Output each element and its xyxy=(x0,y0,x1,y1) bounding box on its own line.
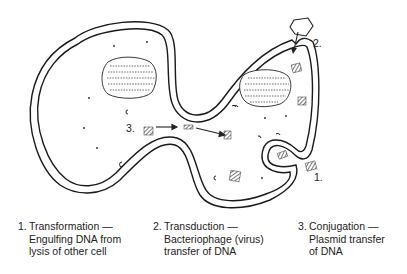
caption-line: Bacteriophage (virus) xyxy=(153,233,264,246)
caption-number: 1. xyxy=(18,220,29,233)
nucleoid-left xyxy=(102,57,156,98)
cell-wall xyxy=(30,22,319,208)
caption-number: 2. xyxy=(153,220,164,233)
caption-transformation: 1.Transformation — Engulfing DNA from ly… xyxy=(18,220,121,258)
caption-line: Engulfing DNA from xyxy=(18,233,121,246)
caption-conjugation: 3.Conjugation — Plasmid transfer of DNA xyxy=(298,220,385,258)
caption-line: lysis of other cell xyxy=(18,245,121,258)
bacteriophage-icon xyxy=(290,18,313,54)
caption-line: of DNA xyxy=(298,245,385,258)
caption-line: transfer of DNA xyxy=(153,245,264,258)
caption-title: Conjugation — xyxy=(309,220,378,232)
marker-conjugation: 3. xyxy=(126,122,135,134)
caption-line: Plasmid transfer xyxy=(298,233,385,246)
caption-title: Transformation — xyxy=(29,220,113,232)
marker-transformation: 1. xyxy=(314,171,323,183)
cell-wall-outer xyxy=(30,22,319,208)
marker-transduction: 2. xyxy=(313,37,322,49)
caption-transduction: 2.Transduction — Bacteriophage (virus) t… xyxy=(153,220,264,258)
nucleoid-right xyxy=(240,70,291,107)
dna-fragments xyxy=(144,63,317,182)
ribosome-crescents xyxy=(120,105,281,180)
caption-title: Transduction — xyxy=(164,220,238,232)
caption-number: 3. xyxy=(298,220,309,233)
